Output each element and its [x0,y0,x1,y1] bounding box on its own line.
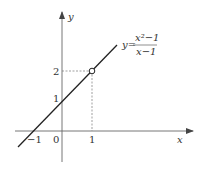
equation-denominator: x−1 [136,46,156,57]
equation-numerator: x²−1 [135,32,159,43]
x-tick-1: 1 [89,134,95,145]
x-axis-label: x [177,134,183,145]
equation-label: y= x²−1 x−1 [121,32,159,57]
y-axis-label: y [67,11,74,22]
x-tick-neg1: −1 [27,134,42,145]
function-line [18,45,117,147]
x-tick-0: 0 [53,134,59,145]
equation-lhs: y= [121,39,136,50]
y-tick-1: 1 [53,93,59,104]
open-circle-hole [89,68,95,74]
function-graph: y x −1 0 1 1 2 y= x²−1 x−1 [0,0,205,176]
y-tick-2: 2 [53,66,59,77]
